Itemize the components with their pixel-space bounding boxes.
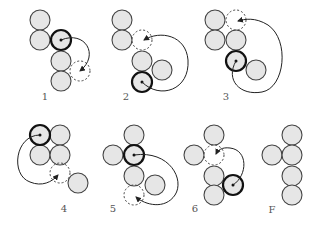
coin (204, 166, 224, 186)
coin (51, 71, 71, 91)
coin (124, 166, 144, 186)
coin (282, 185, 302, 205)
panel-4: 4 (18, 125, 88, 214)
panel-6: 6 (184, 125, 244, 214)
coin (103, 145, 123, 165)
coin (246, 60, 266, 80)
coin (132, 51, 152, 71)
coin (51, 51, 71, 71)
coin (50, 125, 70, 145)
coin (30, 10, 50, 30)
coin (282, 145, 302, 165)
coin (68, 173, 88, 193)
coin (30, 30, 50, 50)
coin (124, 125, 144, 145)
panel-3: 3 (205, 10, 282, 102)
target-position (204, 145, 224, 165)
coin (262, 145, 282, 165)
coin (184, 145, 204, 165)
coin (205, 30, 225, 50)
panel-2: 2 (112, 10, 188, 102)
coin (145, 175, 165, 195)
coin (282, 166, 302, 186)
coin (204, 125, 224, 145)
step-label: 4 (61, 203, 67, 214)
step-label: 2 (123, 91, 129, 102)
step-label: 6 (192, 203, 198, 214)
coin (50, 145, 70, 165)
coin (204, 185, 224, 205)
target-position (132, 30, 152, 50)
coin (205, 10, 225, 30)
step-label: 5 (110, 203, 116, 214)
panel-F: F (262, 125, 302, 215)
coin (112, 30, 132, 50)
coin (152, 60, 172, 80)
coin (282, 125, 302, 145)
step-label: 3 (223, 91, 229, 102)
coin (112, 10, 132, 30)
target-position (124, 185, 144, 205)
panel-1: 1 (30, 10, 90, 102)
step-label: F (269, 204, 276, 215)
panel-5: 5 (103, 125, 178, 214)
coin-puzzle-diagram: 123456F (0, 0, 323, 225)
step-label: 1 (42, 91, 48, 102)
coin (226, 30, 246, 50)
coin (30, 145, 50, 165)
